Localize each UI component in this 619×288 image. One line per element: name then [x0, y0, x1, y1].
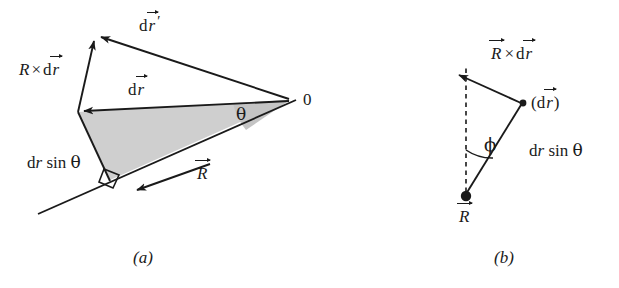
label-dr-sin-theta-b: dr sin θ [529, 142, 583, 159]
dr-point-d: d [537, 93, 546, 112]
dr-sin-theta-b-sin: sin [548, 141, 568, 160]
dr-sin-theta-b-d: d [529, 141, 538, 160]
caption-panel-b: (b) [494, 249, 514, 266]
dr-point-dot [520, 100, 527, 107]
R-cross-dr-vector-b [459, 75, 521, 103]
label-dr-a: dr [128, 81, 145, 98]
label-origin-a: 0 [303, 91, 312, 108]
label-dr-point-b: (dr) [531, 94, 559, 111]
dr-prime-mark: ′ [156, 13, 159, 29]
R-cross-dr-b-R: R [490, 45, 502, 62]
label-R-cross-dr-b: R×dr [490, 45, 533, 62]
dr-prime-r: r [148, 17, 157, 34]
dr-point-close: ) [554, 93, 560, 112]
label-R-vector-a: R [196, 165, 208, 182]
R-cross-dr-a-d: d [43, 60, 52, 79]
dr-prime-d: d [139, 16, 148, 35]
dr-sin-theta-b-theta: θ [572, 140, 582, 160]
caption-panel-a: (a) [133, 249, 153, 266]
figure-root: dr′ R×dr dr 0 θ dr sin θ R (a) R×dr (dr)… [0, 0, 619, 288]
R-cross-dr-b-r: r [524, 45, 533, 62]
label-phi-b: ϕ [484, 136, 496, 154]
dr-point-r: r [545, 94, 554, 111]
dr-sin-theta-a-sin: sin [46, 153, 66, 172]
R-vector-a-glyph: R [196, 165, 208, 182]
label-theta-a: θ [236, 106, 246, 123]
R-cross-dr-a-r: r [51, 61, 60, 78]
R-cross-dr-b-times: × [502, 44, 516, 63]
dr-a-r: r [137, 81, 146, 98]
label-dr-prime-a: dr′ [139, 14, 159, 34]
R-cross-dr-a-times: × [29, 60, 43, 79]
label-dr-sin-theta-a: dr sin θ [27, 154, 81, 171]
dr-sin-theta-a-d: d [27, 153, 36, 172]
R-cross-dr-b-d: d [516, 44, 525, 63]
R-vector-b-glyph: R [458, 208, 470, 225]
dr-sin-theta-a-theta: θ [70, 152, 80, 172]
label-R-vector-b: R [458, 208, 470, 225]
R-cross-dr-a-R: R [19, 60, 29, 79]
panel-a-graphics [38, 37, 296, 214]
R-cross-dr-vector-a [78, 41, 94, 112]
dr-a-d: d [128, 80, 137, 99]
label-R-cross-dr-a: R×dr [19, 61, 60, 78]
